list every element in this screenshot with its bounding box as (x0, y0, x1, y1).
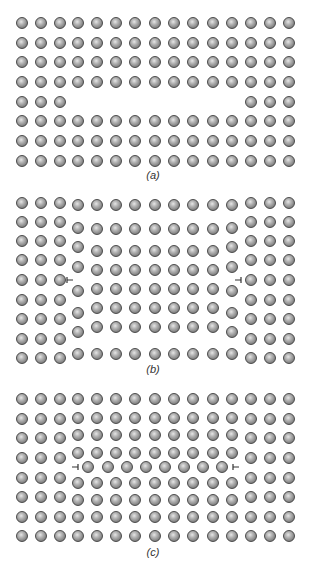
atom-ball (72, 222, 85, 235)
atom-ball (187, 348, 200, 361)
atom-ball (54, 37, 67, 50)
atom-ball (245, 96, 258, 109)
atom-ball (16, 294, 29, 307)
atom-ball (245, 37, 258, 50)
atom-ball (283, 333, 296, 346)
atom-ball (91, 76, 104, 89)
atom-ball (264, 393, 277, 406)
atom-ball (110, 494, 123, 507)
atom-ball (16, 352, 29, 365)
atom-ball (54, 155, 67, 168)
atom-ball (226, 261, 239, 274)
atom-ball (168, 283, 181, 296)
atom-ball (35, 17, 48, 30)
atom-ball (129, 115, 142, 128)
atom-ball (149, 115, 162, 128)
atom-ball (149, 494, 162, 507)
atom-ball (226, 393, 239, 406)
atom-ball (72, 37, 85, 50)
atom-ball (264, 333, 277, 346)
atom-ball (245, 511, 258, 524)
atom-ball (54, 96, 67, 109)
atom-ball (283, 413, 296, 426)
atom-ball (54, 56, 67, 69)
atom-ball (283, 274, 296, 287)
atom-ball (72, 307, 85, 320)
atom-ball (91, 494, 104, 507)
atom-ball (110, 199, 123, 212)
atom-ball (149, 199, 162, 212)
atom-ball (264, 413, 277, 426)
atom-ball (187, 283, 200, 296)
atom-ball (54, 491, 67, 504)
atom-ball (110, 245, 123, 258)
atom-ball (264, 313, 277, 326)
atom-ball (16, 333, 29, 346)
atom-ball (91, 511, 104, 524)
atom-ball (91, 223, 104, 236)
atom-ball (207, 37, 220, 50)
atom-ball (226, 307, 239, 320)
atom-ball (35, 472, 48, 485)
atom-ball (283, 17, 296, 30)
atom-ball (54, 254, 67, 267)
atom-ball (283, 96, 296, 109)
atom-ball (168, 348, 181, 361)
atom-ball (16, 235, 29, 248)
atom-ball (110, 447, 123, 460)
atom-ball (226, 155, 239, 168)
atom-ball (16, 491, 29, 504)
atom-ball (72, 155, 85, 168)
atom-ball (149, 530, 162, 543)
atom-ball (187, 530, 200, 543)
atom-ball (245, 17, 258, 30)
atom-ball (226, 37, 239, 50)
atom-ball (226, 530, 239, 543)
atom-ball (129, 511, 142, 524)
atom-ball (264, 216, 277, 229)
atom-ball (129, 494, 142, 507)
atom-ball (187, 17, 200, 30)
atom-ball (207, 76, 220, 89)
atom-ball (226, 115, 239, 128)
atom-ball (149, 477, 162, 490)
atom-ball (72, 429, 85, 442)
atom-ball (54, 352, 67, 365)
atom-ball (54, 472, 67, 485)
atom-ball (226, 199, 239, 212)
atom-ball (264, 530, 277, 543)
atom-ball (207, 412, 220, 425)
atom-ball (283, 432, 296, 445)
atom-ball (35, 274, 48, 287)
atom-ball (264, 294, 277, 307)
atom-ball (54, 333, 67, 346)
atom-ball (226, 494, 239, 507)
atom-ball (149, 223, 162, 236)
atom-ball (102, 461, 115, 474)
atom-ball (245, 491, 258, 504)
atom-ball (110, 429, 123, 442)
atom-ball (168, 412, 181, 425)
atom-ball (72, 511, 85, 524)
atom-ball (226, 477, 239, 490)
atom-ball (264, 155, 277, 168)
atom-ball (283, 56, 296, 69)
atom-ball (226, 76, 239, 89)
atom-ball (35, 511, 48, 524)
atom-ball (207, 429, 220, 442)
atom-ball (54, 274, 67, 287)
atom-ball (283, 135, 296, 148)
atom-ball (129, 199, 142, 212)
atom-ball (264, 254, 277, 267)
atom-ball (168, 494, 181, 507)
atom-ball (121, 461, 134, 474)
atom-ball (54, 76, 67, 89)
atom-ball (283, 254, 296, 267)
atom-ball (91, 155, 104, 168)
atom-ball (168, 477, 181, 490)
atom-ball (187, 302, 200, 315)
atom-ball (226, 412, 239, 425)
atom-ball (168, 321, 181, 334)
atom-ball (264, 432, 277, 445)
atom-ball (216, 461, 229, 474)
